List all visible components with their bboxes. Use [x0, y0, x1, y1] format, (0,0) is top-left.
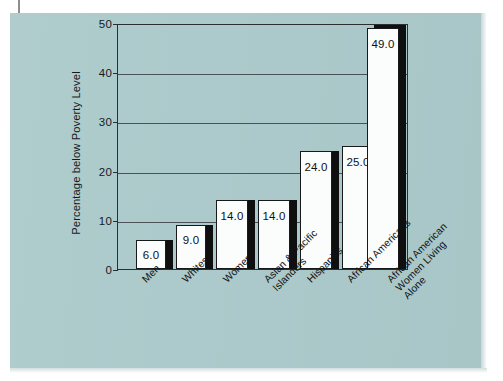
bar-value-whites: 9.0 — [176, 234, 206, 246]
bar-value-women: 14.0 — [216, 210, 248, 222]
bar-value-men: 6.0 — [136, 249, 166, 261]
bar-value-asian-pacific-islanders: 14.0 — [258, 210, 290, 222]
bar-value-african-american-women-living-alone: 49.0 — [367, 38, 399, 50]
bar-value-hispanics: 24.0 — [300, 161, 332, 173]
y-tick-label-30: 30 — [86, 116, 112, 128]
y-tick-label-40: 40 — [86, 67, 112, 79]
gridline-30 — [118, 123, 407, 124]
plot-area: 6.0 9.0 14.0 14.0 24.0 — [117, 24, 408, 270]
y-tick-mark-0 — [113, 270, 118, 271]
y-tick-label-50: 50 — [86, 18, 112, 30]
gridline-40 — [118, 74, 407, 75]
y-tick-label-20: 20 — [86, 166, 112, 178]
y-tick-label-0: 0 — [86, 264, 112, 276]
scanned-page: Percentage below Poverty Level 0 10 20 3… — [0, 0, 503, 381]
bar-chart: Percentage below Poverty Level 0 10 20 3… — [0, 0, 503, 381]
y-axis-ticks: 0 10 20 30 40 50 — [84, 24, 112, 270]
y-tick-label-10: 10 — [86, 215, 112, 227]
y-axis-label: Percentage below Poverty Level — [70, 53, 82, 253]
